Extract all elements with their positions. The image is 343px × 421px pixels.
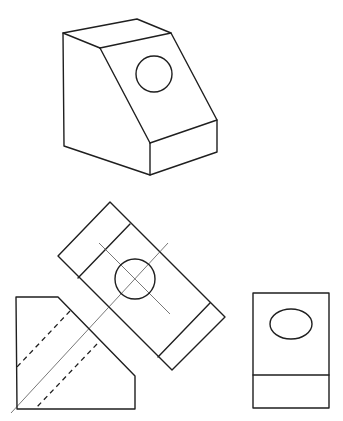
engineering-drawing [0, 0, 343, 421]
outline [253, 293, 329, 408]
front-view [16, 297, 135, 409]
hole-circle [136, 56, 172, 92]
visible-edge [63, 33, 100, 48]
hidden-line [17, 311, 70, 367]
isometric-view [63, 19, 217, 175]
visible-edge [150, 120, 217, 143]
visible-edge [158, 303, 210, 357]
visible-edge [100, 33, 171, 48]
visible-edge [78, 224, 130, 278]
outline [16, 297, 135, 409]
hole-ellipse [270, 309, 312, 339]
auxiliary-view [11, 202, 225, 413]
visible-edge [100, 48, 150, 143]
centerline [11, 243, 168, 413]
side-view [253, 293, 329, 408]
centerline [99, 243, 170, 314]
